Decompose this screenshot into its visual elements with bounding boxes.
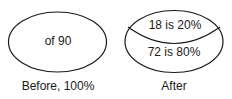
after-caption: After	[150, 79, 198, 93]
before-center-text: of 90	[37, 34, 79, 48]
before-caption: Before, 100%	[10, 79, 106, 93]
after-top-text: 18 is 20%	[145, 18, 205, 32]
after-bottom-text: 72 is 80%	[144, 45, 204, 59]
